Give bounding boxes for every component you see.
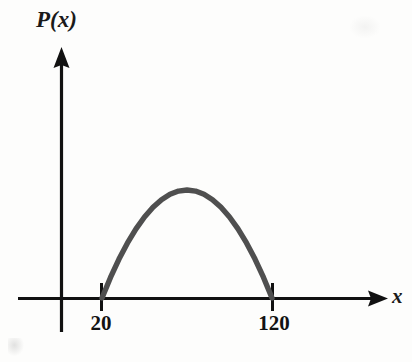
tick-label-120: 120 [258,313,290,334]
y-axis-arrowhead [54,47,70,68]
x-axis [18,291,388,307]
x-axis-arrowhead [368,291,388,307]
tick-label-20: 20 [91,313,112,334]
y-axis [54,47,70,332]
parabola-curve [102,190,272,298]
parabola-plot [0,0,412,362]
figure-container: P(x) x 20 120 [0,0,412,362]
y-axis-label: P(x) [36,8,77,31]
x-axis-label: x [392,286,403,307]
